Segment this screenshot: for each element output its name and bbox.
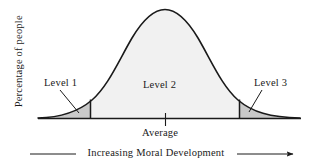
x-axis-title: Increasing Moral Development <box>0 148 312 159</box>
level-2-label: Level 2 <box>143 80 176 91</box>
curve-fill-group <box>38 10 300 119</box>
moral-development-distribution-figure: Percentage of people Level 1 Level 2 Lev… <box>0 0 312 168</box>
y-axis-label: Percentage of people <box>14 6 25 116</box>
level2-center-region <box>38 10 300 119</box>
level1-leader-line <box>60 90 79 113</box>
average-label: Average <box>142 128 178 139</box>
level-3-label: Level 3 <box>254 78 287 89</box>
level-1-label: Level 1 <box>44 78 77 89</box>
level3-leader-line <box>249 90 262 112</box>
